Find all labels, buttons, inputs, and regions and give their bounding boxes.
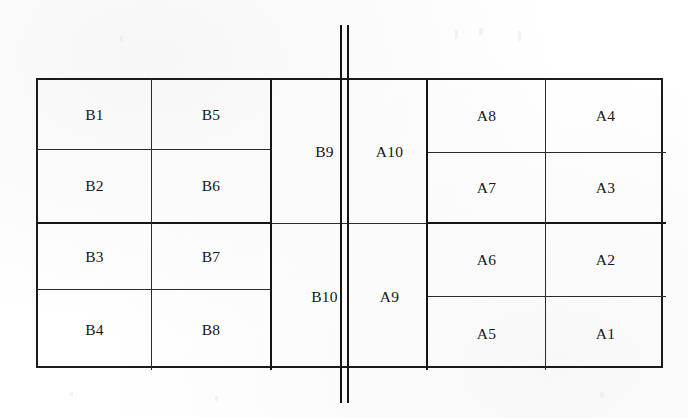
cell-label: B2 [85,177,104,195]
cell-b2[interactable]: B2 [38,150,151,222]
cell-label: B7 [202,248,221,266]
diagram-canvas: B1 B5 B2 B6 B3 B7 B4 B8 B9 B10 [0,0,688,418]
cell-label: A1 [596,325,616,343]
cell-a9[interactable]: A9 [353,224,426,370]
cell-label: A9 [380,288,400,306]
cell-a10[interactable]: A10 [353,80,426,223]
cell-a8[interactable]: A8 [428,80,545,152]
cell-label: B8 [202,321,221,339]
cell-label: B4 [85,321,104,339]
cell-label: A7 [477,179,497,197]
cell-b7[interactable]: B7 [152,224,270,289]
cell-a3[interactable]: A3 [546,153,665,222]
cell-a5[interactable]: A5 [428,297,545,370]
cell-a2[interactable]: A2 [546,224,665,296]
cell-label: A5 [477,325,497,343]
cell-label: A2 [596,251,616,269]
cell-label: A8 [477,107,497,125]
cell-label: A4 [596,107,616,125]
cell-b1[interactable]: B1 [38,80,151,149]
cell-a7[interactable]: A7 [428,153,545,222]
layout-table: B1 B5 B2 B6 B3 B7 B4 B8 B9 B10 [36,78,663,368]
cell-b6[interactable]: B6 [152,150,270,222]
cell-label: B3 [85,248,104,266]
cell-label: B6 [202,177,221,195]
cell-b5[interactable]: B5 [152,80,270,149]
cell-label: A3 [596,179,616,197]
cell-label: B9 [315,143,334,161]
cell-label: B1 [85,106,104,124]
cell-a6[interactable]: A6 [428,224,545,296]
cell-label: B10 [311,288,338,306]
cell-b3[interactable]: B3 [38,224,151,289]
cell-label: B5 [202,106,221,124]
cell-b4[interactable]: B4 [38,290,151,370]
cell-label: A6 [477,251,497,269]
cell-label: A10 [376,143,404,161]
cell-a4[interactable]: A4 [546,80,665,152]
cell-b8[interactable]: B8 [152,290,270,370]
cell-a1[interactable]: A1 [546,297,665,370]
